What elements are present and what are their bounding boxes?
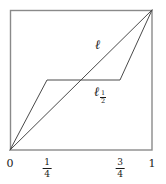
x-tick-label-three-quarters: 3 4 bbox=[116, 156, 125, 179]
x-tick-label-one-quarter: 1 4 bbox=[43, 156, 52, 179]
fraction-numerator: 1 bbox=[43, 158, 52, 168]
subscript-denominator: 2 bbox=[100, 98, 106, 105]
ell-half-symbol: ℓ bbox=[94, 85, 99, 98]
tick-text-0: 0 bbox=[7, 157, 14, 170]
plot-svg bbox=[0, 0, 166, 184]
fraction-denominator: 4 bbox=[43, 169, 52, 179]
figure-container: ℓ ℓ 1 2 0 1 4 3 4 1 bbox=[0, 0, 166, 184]
ell-half-subscript-fraction: 1 2 bbox=[100, 90, 106, 105]
ell-symbol: ℓ bbox=[95, 37, 100, 52]
tick-text-1: 1 bbox=[149, 157, 156, 170]
curve-label-ell: ℓ bbox=[95, 38, 100, 51]
x-tick-label-0: 0 bbox=[7, 158, 14, 169]
x-tick-label-1: 1 bbox=[149, 158, 156, 169]
curve-label-ell-half: ℓ 1 2 bbox=[94, 85, 106, 105]
fraction-one-quarter: 1 4 bbox=[43, 158, 52, 179]
fraction-numerator: 3 bbox=[116, 158, 125, 168]
fraction-three-quarters: 3 4 bbox=[116, 158, 125, 179]
fraction-denominator: 4 bbox=[116, 169, 125, 179]
subscript-numerator: 1 bbox=[100, 90, 106, 97]
